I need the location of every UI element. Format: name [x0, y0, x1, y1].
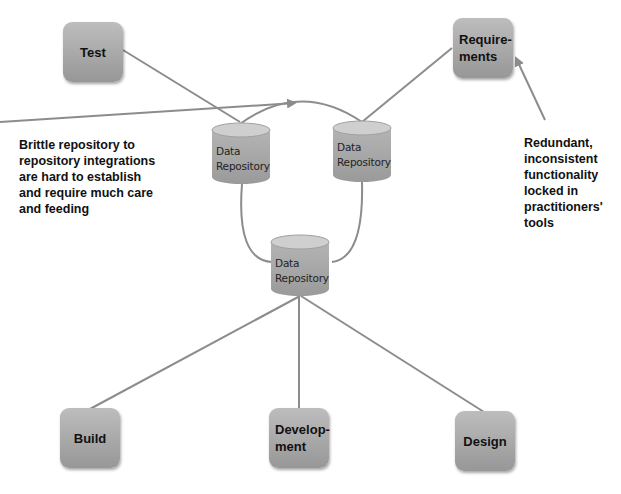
- right-bottom-connector: [332, 182, 362, 262]
- data-repository-right: Data Repository: [332, 120, 392, 182]
- tool-label-development: Develop- ment: [275, 421, 330, 455]
- repository-label: Data Repository: [337, 140, 391, 170]
- tool-label-test: Test: [80, 44, 106, 61]
- annotation-redundant-functionality: Redundant, inconsistent functionality lo…: [524, 135, 603, 231]
- repository-label: Data Repository: [275, 256, 329, 286]
- requirements-connector: [362, 48, 452, 122]
- annotation-brittle-integrations: Brittle repository to repository integra…: [19, 137, 155, 217]
- tool-box-test: Test: [63, 22, 123, 82]
- tool-label-requirements: Require- ments: [459, 31, 512, 65]
- tool-label-build: Build: [74, 430, 107, 447]
- tool-box-design: Design: [455, 411, 515, 471]
- left-bottom-connector: [241, 184, 272, 262]
- left-annotation-arrow: [0, 103, 295, 122]
- tool-box-requirements: Require- ments: [453, 18, 513, 78]
- diagram-canvas: Test Require- ments Build Develop- ment …: [0, 0, 621, 494]
- data-repository-bottom: Data Repository: [270, 234, 330, 296]
- repository-label: Data Repository: [216, 144, 270, 174]
- data-repository-left: Data Repository: [211, 122, 271, 184]
- build-connector: [90, 296, 300, 409]
- tool-label-design: Design: [463, 433, 506, 450]
- design-connector: [301, 296, 484, 412]
- tool-box-development: Develop- ment: [269, 408, 329, 468]
- tool-box-build: Build: [60, 408, 120, 468]
- right-annotation-arrow: [516, 58, 545, 120]
